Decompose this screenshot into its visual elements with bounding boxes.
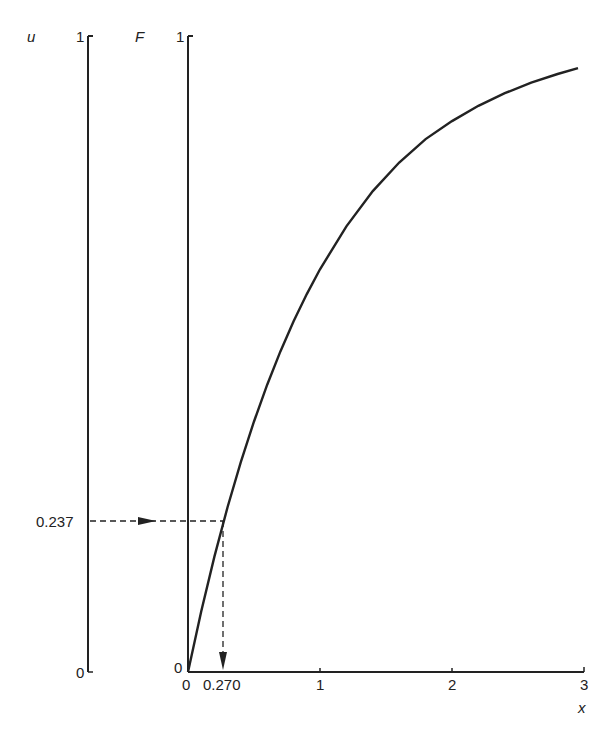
F-bottom-tick: 0 — [174, 659, 182, 676]
F-axis — [188, 36, 193, 672]
chart: u 1 0 F 1 0 0 0.270 1 2 3 x 0.237 — [0, 0, 616, 743]
x-sample-arrow — [219, 521, 227, 670]
u-axis — [88, 36, 93, 672]
x-axis — [188, 667, 584, 672]
F-axis-label: F — [135, 28, 145, 45]
x-tick-3: 3 — [580, 676, 588, 693]
u-bottom-tick: 0 — [76, 664, 84, 681]
x-tick-sample: 0.270 — [203, 676, 241, 693]
u-sample-label: 0.237 — [36, 513, 74, 530]
x-tick-2: 2 — [448, 676, 456, 693]
u-top-tick: 1 — [76, 28, 84, 45]
x-tick-1: 1 — [316, 676, 324, 693]
u-sample-arrow — [90, 517, 223, 525]
u-axis-label: u — [27, 28, 36, 45]
x-tick-0: 0 — [182, 676, 190, 693]
F-top-tick: 1 — [176, 28, 184, 45]
x-axis-label: x — [577, 699, 586, 716]
cdf-curve — [188, 68, 578, 672]
